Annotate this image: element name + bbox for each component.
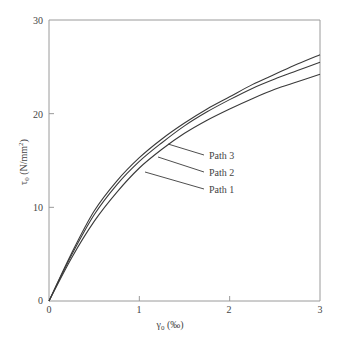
- y-tick-label: 20: [33, 109, 43, 120]
- series-line-path-2: [49, 62, 320, 301]
- x-tick-label: 1: [137, 304, 142, 315]
- leader-line-path-2: [158, 157, 204, 172]
- leader-line-path-1: [145, 172, 204, 189]
- y-tick-label: 10: [33, 202, 43, 213]
- series-line-path-3: [49, 55, 320, 301]
- axis-ticks: [49, 114, 230, 301]
- chart: 0 10 20 30 0 1 2 3 γ0 (‰) τ0 (N/mm2) Pat…: [0, 0, 337, 347]
- legend-label-path-1: Path 1: [209, 184, 234, 195]
- x-tick-label: 2: [227, 304, 232, 315]
- x-tick-label: 3: [318, 304, 323, 315]
- y-tick-label: 30: [33, 15, 43, 26]
- legend-label-path-3: Path 3: [209, 150, 234, 161]
- y-axis-title: τ0 (N/mm2): [17, 139, 31, 185]
- series-line-path-1: [49, 74, 320, 301]
- series-lines: [49, 55, 320, 301]
- y-tick-labels: 0 10 20 30: [33, 15, 43, 306]
- x-tick-label: 0: [47, 304, 52, 315]
- y-tick-label: 0: [38, 295, 43, 306]
- legend-label-path-2: Path 2: [209, 167, 234, 178]
- x-tick-labels: 0 1 2 3: [47, 304, 323, 315]
- plot-frame: [49, 20, 320, 301]
- leader-line-path-3: [168, 144, 204, 155]
- x-axis-title: γ0 (‰): [155, 319, 183, 332]
